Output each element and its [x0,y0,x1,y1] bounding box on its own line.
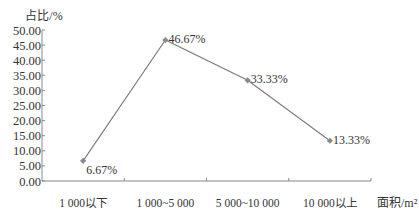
y-tick-label: 45.00 [13,39,41,53]
y-tick-label: 50.00 [13,24,41,38]
line-chart: 0.005.0010.0015.0020.0025.0030.0035.0040… [0,0,419,220]
y-tick-label: 35.00 [13,69,41,83]
y-tick-label: 10.00 [13,144,41,158]
y-tick-label: 30.00 [13,84,41,98]
x-axis-title: 面积/m² [377,196,418,210]
data-label: 13.33% [333,133,370,147]
data-label: 6.67% [86,163,117,177]
y-axis: 0.005.0010.0015.0020.0025.0030.0035.0040… [13,24,45,189]
y-tick-label: 40.00 [13,54,41,68]
y-tick-label: 20.00 [13,114,41,128]
x-category-label: 1 000~5 000 [136,197,194,209]
y-tick-label: 25.00 [13,99,41,113]
x-axis: 1 000以下1 000~5 0005 000~10 00010 000以上 [42,178,371,209]
data-label: 46.67% [168,32,205,46]
y-tick-label: 15.00 [13,129,41,143]
x-category-label: 10 000以上 [303,197,357,209]
x-category-label: 5 000~10 000 [216,197,280,209]
x-category-label: 1 000以下 [59,197,107,209]
y-axis-title: 占比/% [25,8,62,23]
y-tick-label: 5.00 [19,159,41,173]
data-label: 33.33% [251,72,288,86]
data-series: 6.67%46.67%33.33%13.33% [80,32,370,177]
y-tick-label: 0.00 [19,175,41,189]
